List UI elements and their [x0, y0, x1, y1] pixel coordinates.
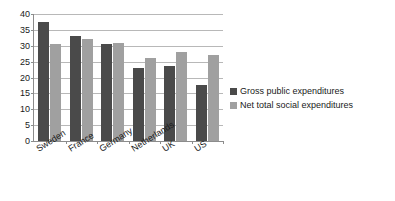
legend-label: Net total social expenditures	[240, 101, 353, 110]
bar	[176, 52, 187, 141]
legend-swatch-icon	[230, 102, 237, 109]
bar	[50, 44, 61, 141]
legend-item: Net total social expenditures	[230, 100, 353, 111]
bar-chart: 0510152025303540 SwedenFranceGermanyNeth…	[0, 0, 395, 201]
bar	[101, 44, 112, 141]
x-tick-mark	[192, 141, 193, 144]
chart-legend: Gross public expendituresNet total socia…	[230, 86, 353, 114]
bar	[82, 39, 93, 141]
y-tick-mark	[31, 141, 34, 142]
plot-area: 0510152025303540	[33, 14, 223, 142]
y-tick-label: 5	[25, 121, 30, 130]
y-tick-label: 0	[25, 137, 30, 146]
y-tick-label: 10	[20, 105, 30, 114]
bar-group	[192, 14, 224, 141]
bar	[70, 36, 81, 141]
bar	[208, 55, 219, 141]
y-tick-label: 25	[20, 57, 30, 66]
y-tick-label: 40	[20, 10, 30, 19]
x-tick-mark	[223, 141, 224, 144]
y-tick-label: 30	[20, 41, 30, 50]
bar-group	[97, 14, 129, 141]
x-tick-mark	[129, 141, 130, 144]
y-tick-label: 15	[20, 89, 30, 98]
legend-swatch-icon	[230, 88, 237, 95]
bar	[113, 43, 124, 141]
bar	[196, 85, 207, 141]
bar-group	[129, 14, 161, 141]
bar	[133, 68, 144, 141]
legend-label: Gross public expenditures	[240, 87, 344, 96]
bar-group	[66, 14, 98, 141]
y-tick-label: 35	[20, 25, 30, 34]
bar-group	[34, 14, 66, 141]
bar	[38, 22, 49, 141]
x-tick-mark	[66, 141, 67, 144]
y-tick-label: 20	[20, 73, 30, 82]
legend-item: Gross public expenditures	[230, 86, 353, 97]
